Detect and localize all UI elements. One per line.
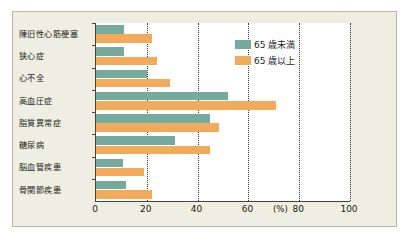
legend-item-over65: 65 歳以上 [235, 54, 295, 67]
bar-under65 [96, 70, 147, 79]
value-axis: 020406080100 [95, 204, 349, 218]
category-tick [92, 157, 97, 158]
bar-group [96, 157, 350, 179]
category-tick [92, 45, 97, 46]
category-label: 高血圧症 [19, 97, 94, 106]
bar-under65 [96, 47, 124, 56]
category-tick [92, 90, 97, 91]
category-tick [92, 68, 97, 69]
category-label: 狭心症 [19, 52, 94, 61]
category-tick [92, 134, 97, 135]
bar-group [96, 68, 350, 90]
bar-group [96, 90, 350, 112]
category-label: 心不全 [19, 74, 94, 83]
x-tick-label: 80 [292, 204, 303, 214]
bar-group [96, 134, 350, 156]
bar-over65 [96, 190, 152, 199]
bar-group [96, 179, 350, 201]
x-tick-label: 40 [191, 204, 202, 214]
bar-group [96, 112, 350, 134]
bar-group [96, 23, 350, 45]
legend-label-over65: 65 歳以上 [254, 54, 295, 67]
category-label: 糖尿病 [19, 141, 94, 150]
bar-over65 [96, 79, 170, 88]
category-label: 骨関節疾患 [19, 186, 94, 195]
x-tick-label: 20 [140, 204, 151, 214]
legend-swatch-over65 [235, 56, 251, 65]
legend-swatch-under65 [235, 40, 251, 49]
x-axis-line [95, 201, 350, 202]
bar-under65 [96, 114, 210, 123]
category-axis: 陳旧性心筋梗塞狭心症心不全高血圧症脂質異常症糖尿病脳血管疾患骨関節疾患 [19, 23, 97, 201]
category-tick [92, 23, 97, 24]
legend-label-under65: 65 歳未満 [254, 38, 295, 51]
x-tick-label: 0 [92, 204, 98, 214]
bar-over65 [96, 101, 276, 110]
category-tick [92, 112, 97, 113]
bar-under65 [96, 181, 126, 190]
bar-under65 [96, 136, 175, 145]
bar-chart-figure: 陳旧性心筋梗塞狭心症心不全高血圧症脂質異常症糖尿病脳血管疾患骨関節疾患 0204… [12, 11, 397, 227]
x-tick-label: 60 [242, 204, 253, 214]
category-label: 脂質異常症 [19, 119, 94, 128]
bar-over65 [96, 123, 219, 132]
axis-unit-label: (%) [273, 204, 288, 214]
bar-over65 [96, 168, 144, 177]
category-label: 陳旧性心筋梗塞 [19, 30, 94, 39]
bar-under65 [96, 92, 228, 101]
legend-item-under65: 65 歳未満 [235, 38, 295, 51]
bar-over65 [96, 146, 210, 155]
bar-over65 [96, 34, 152, 43]
bar-group [96, 45, 350, 67]
plot-area [95, 23, 350, 201]
bar-under65 [96, 159, 123, 168]
bar-under65 [96, 25, 124, 34]
category-label: 脳血管疾患 [19, 163, 94, 172]
category-tick [92, 179, 97, 180]
bar-over65 [96, 57, 157, 66]
chart-legend: 65 歳未満 65 歳以上 [235, 38, 295, 67]
gridline [350, 23, 351, 201]
x-tick-label: 100 [340, 204, 357, 214]
